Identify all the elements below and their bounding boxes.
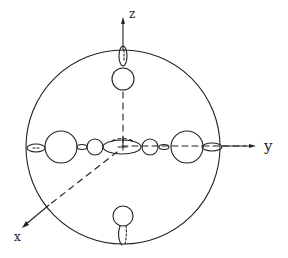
right-small-sphere (142, 139, 158, 155)
z-axis-label: z (129, 8, 135, 20)
left-edge-ring (27, 144, 45, 152)
x-axis-label: x (14, 231, 21, 243)
right-edge-ring (202, 143, 222, 151)
left-large-sphere (45, 131, 77, 163)
bottom-lobe (113, 206, 133, 245)
left-small-sphere (87, 139, 103, 155)
z-axis (112, 17, 134, 145)
y-axis-label: y (264, 139, 272, 154)
right-large-sphere (171, 131, 203, 163)
sphere-axes-diagram (0, 0, 288, 258)
